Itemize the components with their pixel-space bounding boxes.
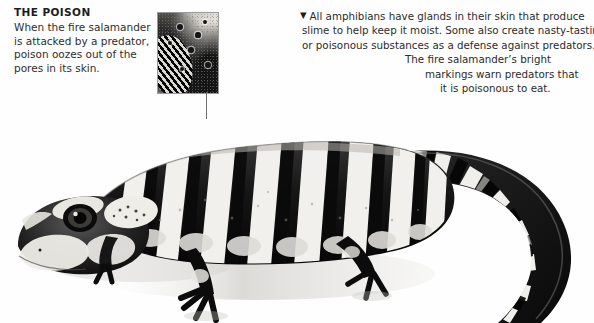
skin-pore-dot [195, 32, 200, 37]
amphibian-caption-line-1: ▼All amphibians have glands in their ski… [300, 8, 586, 23]
poison-caption-line-2: is attacked by a predator, [14, 35, 156, 49]
poison-caption-heading: THE POISON [14, 6, 156, 19]
skin-pore-dot [168, 41, 172, 45]
amphibian-caption-line-1-text: All amphibians have glands in their skin… [310, 10, 585, 22]
amphibian-caption-line-2: slime to help keep it moist. Some also c… [300, 23, 586, 38]
salamander-svg [0, 60, 594, 323]
triangle-bullet-icon: ▼ [300, 10, 307, 20]
fire-salamander-illustration [0, 60, 594, 323]
skin-pore-dot [188, 47, 194, 53]
nostril [39, 249, 42, 252]
amphibian-caption-line-3: or poisonous substances as a defense aga… [300, 38, 586, 53]
salamander-eye [63, 204, 97, 232]
poison-caption-line-1: When the fire salamander [14, 21, 156, 35]
page-canvas: THE POISON When the fire salamander is a… [0, 0, 594, 323]
